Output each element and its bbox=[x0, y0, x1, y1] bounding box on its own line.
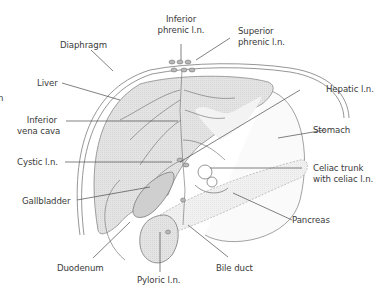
label-liver: Liver bbox=[37, 78, 58, 89]
label-ivc: Inferior vena cava bbox=[17, 115, 57, 136]
label-superior-phrenic: Superior phrenic l.n. bbox=[238, 26, 285, 47]
label-duodenum: Duodenum bbox=[57, 263, 104, 274]
anatomy-figure: n Inferior phrenic l.n. Superior phrenic… bbox=[0, 0, 380, 294]
label-cystic: Cystic l.n. bbox=[17, 157, 58, 168]
anatomy-illustration bbox=[0, 0, 380, 294]
label-celiac: Celiac trunk with celiac l.n. bbox=[313, 163, 373, 184]
label-gallbladder: Gallbladder bbox=[22, 196, 70, 207]
label-inferior-phrenic: Inferior phrenic l.n. bbox=[151, 14, 211, 35]
label-bile-duct: Bile duct bbox=[216, 263, 253, 274]
edge-fragment-label: n bbox=[0, 93, 3, 104]
label-diaphragm: Diaphragm bbox=[60, 40, 107, 51]
label-pancreas: Pancreas bbox=[292, 215, 330, 226]
label-hepatic: Hepatic l.n. bbox=[326, 84, 374, 95]
label-stomach: Stomach bbox=[313, 125, 350, 136]
label-pyloric: Pyloric l.n. bbox=[137, 275, 180, 286]
